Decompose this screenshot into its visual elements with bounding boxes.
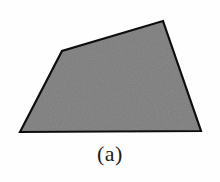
- figure-panel: (a): [0, 0, 220, 182]
- figure-caption-label: (a): [0, 140, 220, 168]
